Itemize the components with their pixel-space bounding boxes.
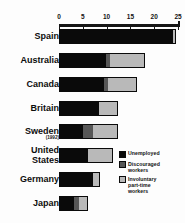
legend: Unemployed Discouraged workers Involunta… (119, 150, 183, 197)
bar-canada (59, 77, 137, 92)
bar-germany (59, 172, 100, 187)
x-axis-label-0: 0 (57, 13, 61, 21)
bar-segment-unemployed (60, 102, 99, 115)
category-label-spain: Spain (34, 31, 59, 41)
bar-segment-involuntary (173, 30, 176, 43)
x-axis: 0 5 10 15 20 25 (59, 24, 178, 27)
bar-spain (59, 29, 176, 44)
legend-item-discouraged: Discouraged workers (119, 161, 183, 173)
bar-segment-unemployed (60, 149, 88, 162)
bar-segment-involuntary (88, 149, 113, 162)
category-label-germany: Germany (20, 174, 59, 184)
category-label-line2: States (31, 155, 59, 165)
category-label-australia: Australia (20, 55, 59, 65)
bar-sweden (59, 124, 118, 139)
category-label-canada: Canada (26, 79, 59, 89)
category-label-united-states: UnitedStates (31, 145, 59, 165)
bar-segment-involuntary (99, 102, 118, 115)
bar-japan (59, 196, 88, 211)
x-axis-label-2: 10 (103, 13, 110, 21)
legend-label-involuntary: Involuntary part-time workers (128, 176, 157, 194)
legend-item-unemployed: Unemployed (119, 150, 183, 158)
bar-united-states (59, 148, 113, 163)
legend-label-discouraged-line2: workers (128, 167, 160, 173)
legend-swatch-unemployed (119, 151, 126, 158)
x-axis-label-4: 20 (151, 13, 158, 21)
legend-swatch-involuntary (119, 176, 126, 183)
legend-label-discouraged: Discouraged workers (128, 161, 160, 173)
bar-segment-unemployed (60, 173, 93, 186)
bar-segment-unemployed (60, 197, 74, 210)
legend-label-involuntary-line1: Involuntary (128, 176, 157, 182)
bar-segment-unemployed (60, 78, 104, 91)
legend-item-involuntary: Involuntary part-time workers (119, 176, 183, 194)
x-axis-end-cap (178, 21, 180, 27)
bar-segment-involuntary (108, 78, 137, 91)
bar-segment-unemployed (60, 30, 173, 43)
x-axis-label-3: 15 (127, 13, 134, 21)
bar-australia (59, 53, 145, 68)
bar-segment-involuntary (93, 125, 118, 138)
bar-segment-unemployed (60, 54, 106, 67)
bar-segment-involuntary (110, 54, 145, 67)
stacked-bar-chart: 0 5 10 15 20 25 SpainAustraliaCanadaBrit… (0, 0, 185, 223)
bar-segment-unemployed (60, 125, 83, 138)
bar-segment-involuntary (79, 197, 88, 210)
bar-britain (59, 101, 118, 116)
category-label-line1: United (31, 145, 59, 155)
category-label-britain: Britain (30, 103, 59, 113)
legend-label-involuntary-line3: workers (128, 188, 157, 194)
x-axis-label-1: 5 (81, 13, 85, 21)
category-sublabel-sweden: (1992) (46, 135, 59, 140)
x-axis-tick-5 (178, 27, 179, 30)
legend-label-discouraged-line1: Discouraged (128, 161, 160, 167)
legend-swatch-discouraged (119, 161, 126, 168)
bar-segment-involuntary (93, 173, 100, 186)
legend-label-unemployed: Unemployed (128, 150, 160, 156)
x-axis-label-5: 25 (174, 13, 181, 21)
category-label-japan: Japan (33, 198, 59, 208)
bar-segment-discouraged (83, 125, 93, 138)
